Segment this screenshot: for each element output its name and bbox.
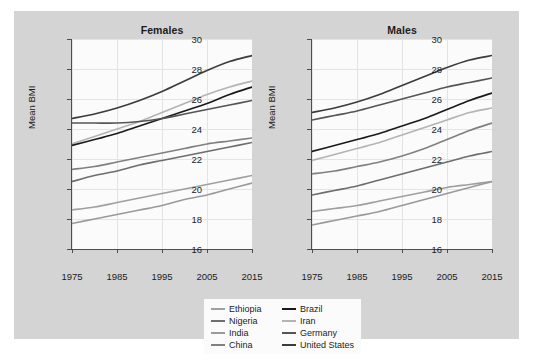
x-tick-label: 2005 (427, 271, 467, 282)
y-tick-mark (307, 99, 311, 100)
y-tick-mark (307, 39, 311, 40)
y-tick-mark (307, 69, 311, 70)
y-tick-label: 18 (416, 214, 442, 225)
series-lines (312, 39, 492, 249)
figure-canvas: Females Mean BMI 1618202224262830 197519… (14, 11, 519, 339)
chart-screenshot: Females Mean BMI 1618202224262830 197519… (0, 0, 533, 361)
y-tick-label: 20 (416, 184, 442, 195)
y-axis-line-males (311, 39, 312, 249)
x-tick-mark (162, 249, 163, 253)
x-tick-mark (252, 249, 253, 253)
y-axis-line-females (71, 39, 72, 249)
x-tick-mark (447, 249, 448, 253)
legend-label: Germany (300, 327, 337, 339)
legend-label: Iran (300, 315, 316, 327)
y-axis-label-males: Mean BMI (266, 115, 277, 129)
y-tick-label: 16 (176, 244, 202, 255)
y-tick-label: 22 (416, 154, 442, 165)
legend-item[interactable]: Ethiopia (211, 303, 275, 315)
x-tick-label: 1985 (97, 271, 137, 282)
legend-swatch-icon (211, 332, 225, 334)
plot-wrap-males: 1618202224262830 19751985199520052015 (312, 39, 492, 249)
y-tick-mark (307, 249, 311, 250)
legend-item[interactable]: India (211, 327, 275, 339)
legend-item[interactable]: Brazil (282, 303, 354, 315)
x-tick-label: 1985 (337, 271, 377, 282)
y-tick-mark (67, 129, 71, 130)
series-line (312, 182, 492, 212)
legend-label: Nigeria (229, 315, 258, 327)
x-tick-label: 1975 (292, 271, 332, 282)
series-line (72, 138, 252, 170)
series-line (72, 183, 252, 224)
chart-legend: EthiopiaBrazilNigeriaIranIndiaGermanyChi… (204, 299, 361, 354)
x-tick-mark (312, 249, 313, 253)
panel-females: Females Mean BMI 1618202224262830 197519… (28, 23, 252, 277)
plot-area-males (312, 39, 492, 249)
series-line (312, 123, 492, 174)
y-tick-label: 20 (176, 184, 202, 195)
x-tick-label: 2015 (472, 271, 512, 282)
plot-area-females (72, 39, 252, 249)
legend-item[interactable]: Nigeria (211, 315, 275, 327)
x-tick-label: 1975 (52, 271, 92, 282)
legend-label: Ethiopia (229, 303, 262, 315)
y-tick-mark (67, 39, 71, 40)
legend-label: Brazil (300, 303, 323, 315)
x-tick-mark (402, 249, 403, 253)
legend-swatch-icon (282, 308, 296, 310)
y-tick-label: 22 (176, 154, 202, 165)
series-lines (72, 39, 252, 249)
legend-swatch-icon (282, 332, 296, 334)
y-tick-mark (67, 99, 71, 100)
y-tick-label: 18 (176, 214, 202, 225)
x-tick-mark (357, 249, 358, 253)
legend-label: China (229, 339, 253, 351)
panel-title-males: Males (312, 23, 492, 37)
series-line (72, 56, 252, 119)
x-tick-mark (72, 249, 73, 253)
y-tick-mark (67, 249, 71, 250)
y-tick-label: 28 (416, 64, 442, 75)
y-tick-mark (67, 69, 71, 70)
legend-item[interactable]: Iran (282, 315, 354, 327)
plot-wrap-females: 1618202224262830 19751985199520052015 (72, 39, 252, 249)
y-tick-mark (307, 189, 311, 190)
y-tick-label: 24 (416, 124, 442, 135)
x-tick-label: 1995 (382, 271, 422, 282)
legend-label: India (229, 327, 249, 339)
panel-title-females: Females (72, 23, 252, 37)
y-tick-label: 16 (416, 244, 442, 255)
y-tick-label: 30 (416, 34, 442, 45)
legend-swatch-icon (282, 344, 296, 346)
y-tick-label: 28 (176, 64, 202, 75)
y-tick-label: 26 (416, 94, 442, 105)
legend-swatch-icon (211, 320, 225, 322)
y-tick-mark (67, 159, 71, 160)
series-line (312, 182, 492, 226)
y-axis-label-females: Mean BMI (26, 115, 37, 129)
legend-label: United States (300, 339, 354, 351)
series-line (312, 108, 492, 161)
y-tick-mark (67, 219, 71, 220)
legend-swatch-icon (282, 320, 296, 322)
legend-swatch-icon (211, 344, 225, 346)
panel-males: Males Mean BMI 1618202224262830 19751985… (268, 23, 492, 277)
x-tick-mark (492, 249, 493, 253)
x-tick-label: 1995 (142, 271, 182, 282)
x-tick-label: 2005 (187, 271, 227, 282)
y-tick-mark (67, 189, 71, 190)
series-line (72, 143, 252, 182)
y-tick-mark (307, 219, 311, 220)
series-line (312, 93, 492, 152)
series-line (72, 87, 252, 146)
legend-item[interactable]: China (211, 339, 275, 351)
y-tick-label: 24 (176, 124, 202, 135)
legend-swatch-icon (211, 308, 225, 310)
y-tick-mark (307, 129, 311, 130)
y-tick-label: 26 (176, 94, 202, 105)
x-tick-mark (207, 249, 208, 253)
legend-item[interactable]: United States (282, 339, 354, 351)
legend-item[interactable]: Germany (282, 327, 354, 339)
y-tick-mark (307, 159, 311, 160)
